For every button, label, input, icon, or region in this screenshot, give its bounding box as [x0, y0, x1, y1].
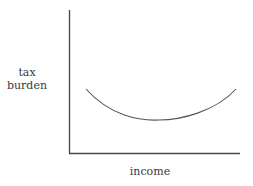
x-axis-label: income — [120, 165, 180, 178]
tax-burden-curve — [86, 89, 236, 120]
y-axis-label-line1: tax — [4, 66, 50, 79]
y-axis-label-line2: burden — [4, 79, 50, 92]
u-curve-diagram — [0, 0, 253, 186]
y-axis-label: tax burden — [4, 66, 50, 92]
